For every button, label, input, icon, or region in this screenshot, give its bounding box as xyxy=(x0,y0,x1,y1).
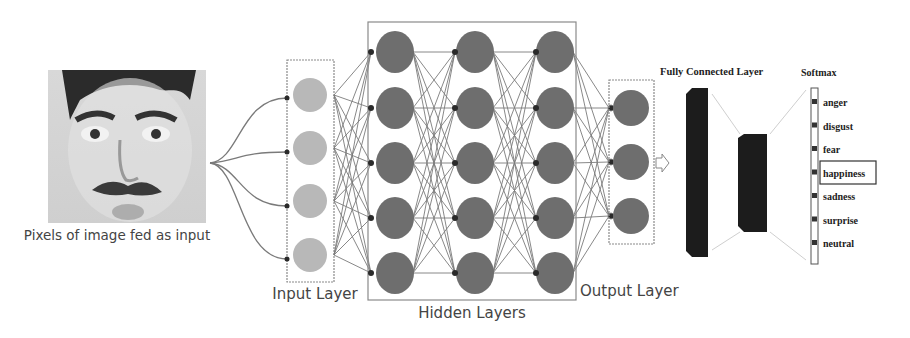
junction-node xyxy=(533,270,539,276)
hidden-node xyxy=(456,142,494,184)
hidden-node xyxy=(536,142,574,184)
softmax-class-sadness: sadness xyxy=(823,191,855,202)
image-to-input-connections xyxy=(210,98,287,259)
output-layer-label: Output Layer xyxy=(580,282,680,300)
junction-node xyxy=(452,270,458,276)
junction-node xyxy=(368,105,374,111)
hidden-node xyxy=(376,31,414,73)
hidden-node xyxy=(376,87,414,129)
junction-node xyxy=(368,49,374,55)
hidden-node xyxy=(536,31,574,73)
output-layer xyxy=(609,80,654,244)
softmax-class-happiness: happiness xyxy=(823,168,865,179)
arrow-icon xyxy=(656,154,669,172)
hidden-node xyxy=(536,252,574,294)
junction-node xyxy=(533,49,539,55)
fully-connected-label: Fully Connected Layer xyxy=(660,66,764,77)
hidden-node xyxy=(456,31,494,73)
hidden-node xyxy=(456,252,494,294)
softmax-class-anger: anger xyxy=(823,97,848,108)
softmax-class-neutral: neutral xyxy=(823,238,854,249)
hidden-node xyxy=(376,197,414,239)
input-layer xyxy=(285,60,335,282)
junction-node xyxy=(533,215,539,221)
hidden-node xyxy=(376,142,414,184)
hidden-node xyxy=(376,252,414,294)
hidden-layers xyxy=(368,31,574,294)
hidden-node xyxy=(536,87,574,129)
junction-node xyxy=(452,160,458,166)
hidden-node xyxy=(456,87,494,129)
cnn-architecture-diagram: Pixels of image fed as input Input Layer… xyxy=(0,0,910,338)
junction-node xyxy=(533,105,539,111)
hidden-node xyxy=(536,197,574,239)
hidden-node xyxy=(456,197,494,239)
softmax-class-disgust: disgust xyxy=(823,121,854,132)
input-layer-label: Input Layer xyxy=(272,285,358,303)
junction-node xyxy=(368,215,374,221)
fully-connected-layer xyxy=(686,88,806,260)
junction-node xyxy=(452,215,458,221)
junction-node xyxy=(368,160,374,166)
input-image-caption: Pixels of image fed as input xyxy=(24,227,210,243)
hidden-layers-label: Hidden Layers xyxy=(418,304,526,322)
input-face-image xyxy=(48,70,206,223)
junction-node xyxy=(368,270,374,276)
softmax-label: Softmax xyxy=(801,67,837,78)
junction-node xyxy=(533,160,539,166)
softmax-class-surprise: surprise xyxy=(823,215,859,226)
junction-node xyxy=(452,105,458,111)
softmax-class-fear: fear xyxy=(823,144,841,155)
junction-node xyxy=(452,49,458,55)
